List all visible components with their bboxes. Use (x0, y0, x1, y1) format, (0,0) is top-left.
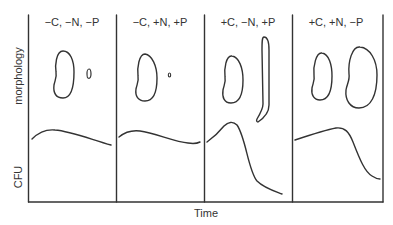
cell-filament-icon (257, 37, 269, 122)
figure: −C, −N, −P −C, +N, +P +C, −N, +P +C, +N,… (0, 0, 393, 225)
cfu-curve-panel-3 (207, 122, 282, 194)
x-axis-label-time: Time (194, 207, 218, 219)
condition-label-panel-3: +C, −N, +P (204, 16, 292, 28)
cfu-curve-panel-2 (119, 131, 200, 144)
y-axis-label-morphology: morphology (12, 44, 24, 108)
cell-bean-icon (136, 54, 157, 101)
cfu-curve-panel-4 (295, 128, 380, 179)
cell-bean-icon (223, 56, 243, 103)
cell-small-oval-icon (87, 69, 91, 78)
figure-canvas (0, 0, 393, 225)
cell-dot-icon (168, 73, 170, 77)
cell-bean-icon (312, 53, 332, 100)
condition-label-panel-2: −C, +N, +P (116, 16, 204, 28)
condition-label-panel-1: −C, −N, −P (28, 16, 116, 28)
cfu-curve-panel-1 (32, 130, 111, 145)
cell-large-bean-icon (346, 47, 377, 108)
condition-label-panel-4: +C, +N, −P (292, 16, 380, 28)
cell-bean-icon (54, 51, 74, 98)
y-axis-label-cfu: CFU (12, 157, 24, 197)
